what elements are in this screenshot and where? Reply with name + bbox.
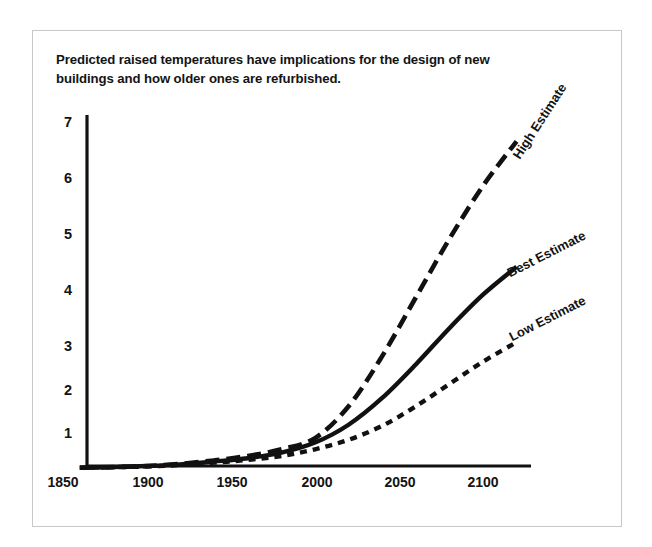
line-best-estimate	[80, 267, 517, 468]
figure-container: Predicted raised temperatures have impli…	[0, 0, 652, 547]
line-high-estimate	[80, 141, 517, 467]
axes	[87, 115, 531, 466]
series-paths	[80, 141, 517, 467]
plot-area	[0, 0, 652, 547]
